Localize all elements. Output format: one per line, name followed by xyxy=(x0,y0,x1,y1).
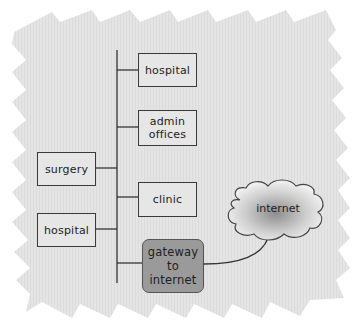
node-gateway-to-internet[interactable]: gateway to internet xyxy=(142,239,204,293)
node-surgery[interactable]: surgery xyxy=(37,152,96,186)
network-diagram: hospital admin offices clinic gateway to… xyxy=(0,0,363,326)
node-label: hospital xyxy=(145,64,190,77)
node-hospital-left[interactable]: hospital xyxy=(37,213,96,247)
node-label: hospital xyxy=(44,224,89,237)
node-clinic[interactable]: clinic xyxy=(138,182,197,217)
node-hospital-right[interactable]: hospital xyxy=(138,53,197,87)
node-admin-offices[interactable]: admin offices xyxy=(138,110,197,146)
node-label: admin offices xyxy=(149,115,186,141)
node-label: surgery xyxy=(45,163,88,176)
node-label: clinic xyxy=(153,193,182,206)
node-label: gateway to internet xyxy=(148,245,199,287)
internet-cloud-label[interactable]: internet xyxy=(248,202,308,215)
